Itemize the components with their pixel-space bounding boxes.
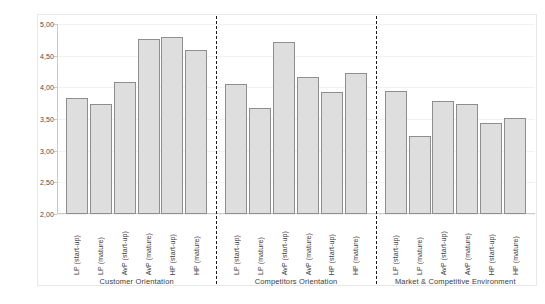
- bar: [456, 104, 478, 214]
- y-tick-label: 4,00: [40, 84, 54, 91]
- bar: [409, 136, 431, 214]
- bars-layer: [57, 24, 535, 214]
- bar: [161, 37, 183, 214]
- bar: [297, 77, 319, 214]
- group-labels: Customer OrientationCompetitors Orientat…: [57, 277, 535, 289]
- bar: [114, 82, 136, 214]
- y-tick-label: 3,50: [40, 116, 54, 123]
- bar: [321, 92, 343, 214]
- bar: [225, 84, 247, 214]
- x-tick-label: HP (mature): [485, 215, 545, 275]
- x-tick-label-text: HP (mature): [193, 236, 200, 275]
- y-tick-label: 5,00: [40, 21, 54, 28]
- y-tick-label: 2,50: [40, 179, 54, 186]
- bar: [249, 108, 271, 214]
- bar: [66, 98, 88, 214]
- y-tick-label: 4,50: [40, 52, 54, 59]
- x-tick-label-text: HP (mature): [352, 236, 359, 275]
- x-tick-label-text: HP (mature): [512, 236, 519, 275]
- y-axis: 5,004,504,003,503,002,502,00: [37, 24, 57, 214]
- group-label: Competitors Orientation: [216, 277, 375, 286]
- x-axis-labels: LP (start-up)LP (mature)AvP (start-up)Av…: [57, 215, 535, 275]
- group-label: Market & Competitive Environment: [376, 277, 535, 286]
- bar: [345, 73, 367, 214]
- y-tick-label: 3,00: [40, 147, 54, 154]
- bar: [385, 91, 407, 214]
- bar: [138, 39, 160, 214]
- group-label: Customer Orientation: [57, 277, 216, 286]
- bar: [480, 123, 502, 214]
- bar: [273, 42, 295, 214]
- bar-chart: 5,004,504,003,503,002,502,00 LP (start-u…: [0, 0, 545, 304]
- bar: [504, 118, 526, 214]
- bar: [185, 50, 207, 214]
- bar: [90, 104, 112, 214]
- bar: [432, 101, 454, 214]
